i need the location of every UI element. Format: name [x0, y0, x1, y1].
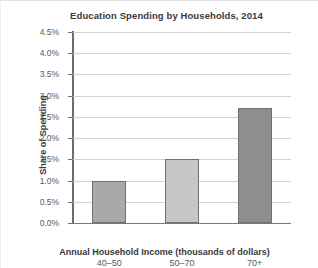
gridline [73, 223, 291, 224]
y-axis-tick-label: 1.0% [40, 176, 59, 186]
plot-area: 4.5%4.0%3.5%3.0%2.5%2.0%1.5%1.0%0.5%0.0%… [73, 32, 291, 223]
y-axis-tick-label: 0.0% [40, 218, 59, 228]
bar [165, 159, 199, 223]
y-axis-tick: 2.5% [68, 117, 73, 118]
x-axis-category-label: 70+ [247, 258, 262, 268]
y-axis-tick: 0.5% [68, 202, 73, 203]
x-axis-category-label: 40–50 [97, 258, 122, 268]
bar [92, 181, 126, 223]
bar [238, 108, 272, 223]
y-axis-tick-label: 4.0% [40, 48, 59, 58]
y-axis-tick-label: 3.5% [40, 69, 59, 79]
y-axis-tick: 3.5% [68, 74, 73, 75]
y-axis-tick-label: 3.0% [40, 91, 59, 101]
x-axis-category-label: 50–70 [169, 258, 194, 268]
gridline [73, 74, 291, 75]
y-axis-tick-label: 1.5% [40, 154, 59, 164]
y-axis-line [72, 31, 74, 224]
y-axis-tick-label: 2.0% [40, 133, 59, 143]
chart-page: Education Spending by Households, 2014 S… [0, 0, 318, 268]
gridline [73, 32, 291, 33]
y-axis-tick: 2.0% [68, 138, 73, 139]
y-axis-tick-label: 2.5% [40, 112, 59, 122]
y-axis-tick: 0.0% [68, 223, 73, 224]
gridline [73, 53, 291, 54]
y-axis-tick: 1.0% [68, 181, 73, 182]
y-axis-tick: 3.0% [68, 96, 73, 97]
y-axis-tick: 4.0% [68, 53, 73, 54]
gridline [73, 96, 291, 97]
y-axis-tick-label: 4.5% [40, 27, 59, 37]
y-axis-tick-label: 0.5% [40, 197, 59, 207]
y-axis-tick: 4.5% [68, 32, 73, 33]
chart-title: Education Spending by Households, 2014 [1, 10, 318, 21]
y-axis-tick: 1.5% [68, 159, 73, 160]
x-axis-title: Annual Household Income (thousands of do… [1, 247, 318, 257]
